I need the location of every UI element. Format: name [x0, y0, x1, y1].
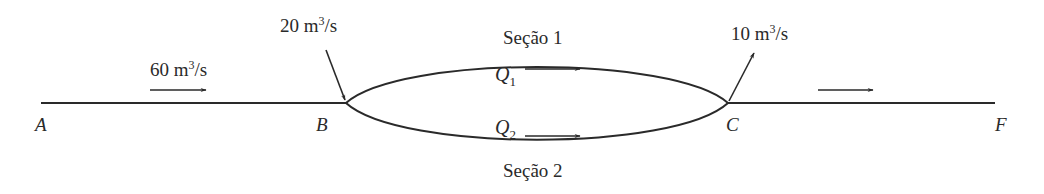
outflow-arrow-c-icon: [729, 53, 754, 101]
pipe-network-diagram: 60 m3/s 20 m3/s 10 m3/s Seção 1 Seção 2 …: [0, 0, 1044, 194]
node-b-label: B: [316, 114, 328, 135]
pipe-section-2: [346, 103, 728, 140]
section-1-label: Seção 1: [503, 27, 563, 48]
node-f-label: F: [994, 114, 1007, 135]
pipe-section-1: [346, 67, 728, 103]
outflow-c-label: 10 m3/s: [731, 22, 788, 44]
node-c-label: C: [726, 114, 739, 135]
section-2-label: Seção 2: [503, 160, 563, 181]
inflow-b-label: 20 m3/s: [280, 14, 337, 36]
inflow-arrow-b-icon: [326, 50, 345, 100]
inlet-flow-label: 60 m3/s: [150, 58, 207, 80]
node-a-label: A: [33, 114, 47, 135]
